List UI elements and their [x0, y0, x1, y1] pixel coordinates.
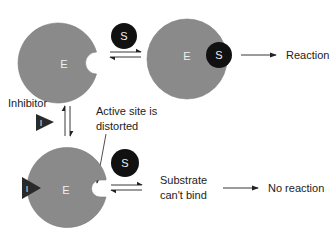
no-reaction-label: No reaction [268, 182, 324, 194]
substrate-cant-bind-line1: Substrate [160, 174, 207, 186]
enzyme-free: E [18, 23, 96, 103]
complex-enzyme-label: E [183, 50, 190, 62]
equilibrium-arrows-top [110, 52, 141, 57]
reaction-label: Reaction [286, 49, 329, 61]
complex-substrate-label: S [215, 49, 222, 61]
inhibitor-caption: Inhibitor [8, 97, 47, 109]
inhibited-enzyme-label: E [62, 184, 69, 196]
bound-inhibitor-label: I [26, 184, 29, 194]
inhibitor-label: I [40, 118, 43, 128]
equilibrium-arrows-bottom [111, 185, 142, 190]
enzyme-label: E [60, 58, 67, 70]
equilibrium-arrows-vertical [65, 106, 70, 136]
inhibitor-shape: I [36, 114, 54, 131]
active-site-label-line1: Active site is [96, 105, 158, 117]
substrate-label: S [120, 30, 127, 42]
substrate-cant-bind-line2: can't bind [160, 189, 207, 201]
enzyme-substrate-complex: E S [147, 19, 232, 99]
enzyme-inhibited: E I [22, 147, 106, 227]
active-site-label-line2: distorted [96, 120, 138, 132]
substrate-bottom-label: S [121, 157, 128, 169]
substrate-top: S [111, 23, 137, 49]
enzyme-inhibition-diagram: E S E S Reaction Inhibitor I Active site… [0, 0, 334, 238]
substrate-bottom: S [111, 149, 139, 177]
